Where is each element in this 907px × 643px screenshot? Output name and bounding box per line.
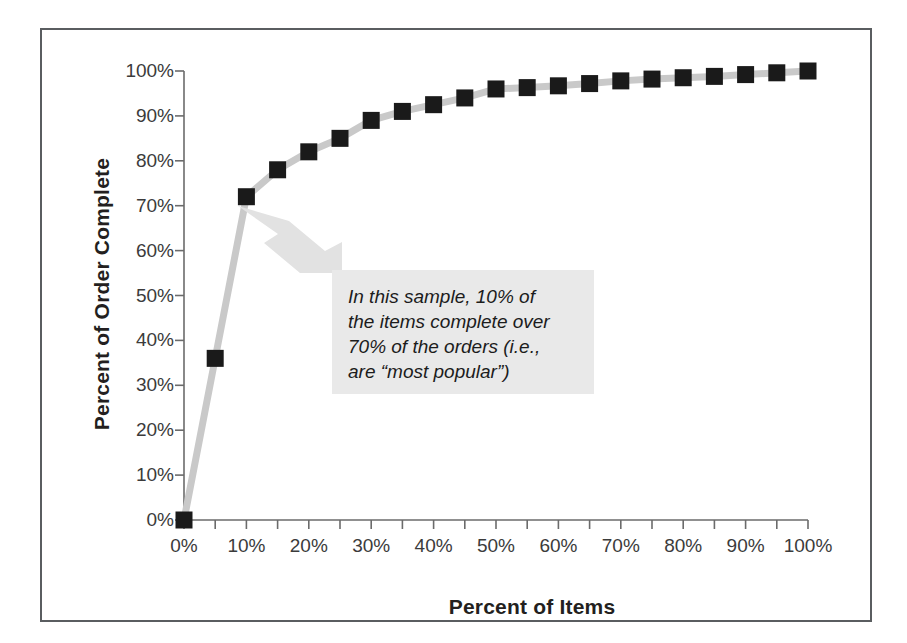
y-tick-label: 50%: [70, 285, 174, 307]
chart-frame: Percent of Order Complete Percent of Ite…: [40, 28, 872, 622]
y-tick-label: 80%: [70, 150, 174, 172]
y-tick-label: 70%: [70, 195, 174, 217]
y-tick-label: 30%: [70, 374, 174, 396]
y-tick-label: 100%: [70, 60, 174, 82]
callout-text: In this sample, 10% of the items complet…: [348, 284, 580, 384]
x-tick-label: 40%: [415, 535, 453, 557]
y-tick-label: 20%: [70, 419, 174, 441]
x-axis-title: Percent of Items: [192, 595, 872, 619]
x-tick-label: 30%: [352, 535, 390, 557]
y-tick-label: 90%: [70, 105, 174, 127]
chart-figure: Percent of Order Complete Percent of Ite…: [0, 0, 907, 643]
x-tick-label: 0%: [170, 535, 197, 557]
x-tick-label: 90%: [727, 535, 765, 557]
callout-arrow-icon: [238, 206, 342, 273]
y-tick-label: 40%: [70, 329, 174, 351]
y-tick-label: 60%: [70, 240, 174, 262]
y-tick-label: 0%: [70, 509, 174, 531]
y-tick-label: 10%: [70, 464, 174, 486]
x-tick-label: 10%: [227, 535, 265, 557]
x-tick-label: 80%: [664, 535, 702, 557]
x-tick-label: 20%: [290, 535, 328, 557]
x-tick-label: 70%: [602, 535, 640, 557]
callout-box: In this sample, 10% of the items complet…: [332, 270, 594, 394]
x-tick-label: 60%: [539, 535, 577, 557]
x-tick-label: 100%: [784, 535, 833, 557]
x-tick-label: 50%: [477, 535, 515, 557]
